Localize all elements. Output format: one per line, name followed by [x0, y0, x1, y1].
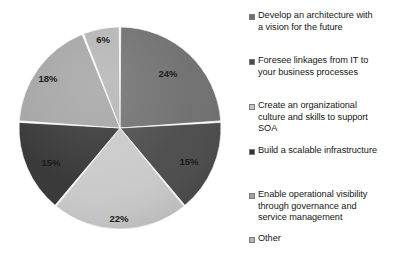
pie-slice-value-develop-architecture: 24% — [158, 68, 178, 79]
pie-slice-value-create-culture-skills: 22% — [109, 213, 129, 224]
legend-swatch-icon-create-culture-skills — [249, 104, 255, 110]
legend-label-build-scalable-infrastructure: Build a scalable infrastructure — [258, 145, 377, 157]
legend-item-foresee-linkages[interactable]: Foresee linkages from IT to your busines… — [249, 55, 406, 78]
pie-sheen-overlay — [19, 27, 221, 229]
legend-item-develop-architecture[interactable]: Develop an architecture with a vision fo… — [249, 10, 406, 33]
pie-slice-value-build-scalable-infrastructure: 15% — [41, 157, 61, 168]
legend-label-foresee-linkages: Foresee linkages from IT to your busines… — [258, 55, 368, 78]
pie-chart-plot-area: 24%15%22%15%18%6% — [0, 0, 244, 261]
pie-chart-figure: 24%15%22%15%18%6% Develop an architectur… — [0, 0, 406, 261]
legend-item-create-culture-skills[interactable]: Create an organizational culture and ski… — [249, 100, 406, 135]
legend-swatch-icon-enable-operational-visibility — [249, 193, 255, 199]
pie-slice-value-other: 6% — [96, 34, 110, 45]
legend-swatch-icon-build-scalable-infrastructure — [249, 149, 255, 155]
legend-swatch-icon-develop-architecture — [249, 14, 255, 20]
pie-slice-value-foresee-linkages: 15% — [179, 156, 199, 167]
legend-swatch-icon-other — [249, 237, 255, 243]
pie-chart-svg: 24%15%22%15%18%6% — [0, 0, 244, 261]
legend-label-create-culture-skills: Create an organizational culture and ski… — [258, 100, 368, 135]
chart-legend: Develop an architecture with a vision fo… — [249, 0, 406, 261]
pie-slice-value-enable-operational-visibility: 18% — [38, 73, 58, 84]
legend-label-enable-operational-visibility: Enable operational visibility through go… — [258, 189, 367, 224]
legend-item-enable-operational-visibility[interactable]: Enable operational visibility through go… — [249, 189, 406, 224]
legend-label-develop-architecture: Develop an architecture with a vision fo… — [258, 10, 373, 33]
legend-label-other: Other — [258, 233, 281, 245]
legend-item-build-scalable-infrastructure[interactable]: Build a scalable infrastructure — [249, 145, 406, 157]
legend-item-other[interactable]: Other — [249, 233, 406, 245]
legend-swatch-icon-foresee-linkages — [249, 59, 255, 65]
